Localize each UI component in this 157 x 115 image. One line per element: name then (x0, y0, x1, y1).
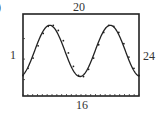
data-point (123, 43, 125, 45)
data-point (113, 25, 115, 27)
data-point (138, 75, 140, 77)
data-point (93, 57, 95, 59)
data-point (27, 67, 29, 69)
data-point (83, 76, 85, 78)
window-frame (23, 14, 139, 96)
data-point (103, 32, 105, 34)
x-axis-ticks (23, 39, 139, 96)
data-point (42, 33, 44, 35)
data-point (57, 30, 59, 32)
data-point (128, 56, 130, 58)
data-point (88, 68, 90, 70)
plot-area (0, 0, 157, 115)
data-point (47, 25, 49, 27)
data-point (108, 24, 110, 26)
model-curve (23, 25, 139, 76)
data-point (67, 52, 69, 54)
data-point (78, 75, 80, 77)
data-point (37, 45, 39, 47)
data-point (52, 24, 54, 26)
data-points (22, 24, 140, 77)
data-point (118, 32, 120, 34)
data-point (133, 67, 135, 69)
data-point (73, 65, 75, 67)
data-point (32, 57, 34, 59)
data-point (98, 44, 100, 46)
data-point (22, 75, 24, 77)
data-point (62, 40, 64, 42)
